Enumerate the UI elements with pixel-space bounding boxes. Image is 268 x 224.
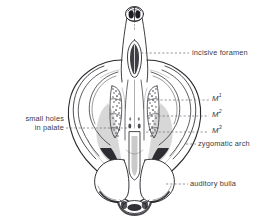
skull-figure: incisive foramen M1 M2 M3 zygomatic arch… xyxy=(0,0,268,224)
auditory-bulla-left xyxy=(95,159,129,202)
label-m1-superscript: 1 xyxy=(219,92,222,98)
label-auditory-bulla-text: auditory bulla xyxy=(190,179,236,188)
label-m1: M1 xyxy=(212,94,222,103)
palate xyxy=(125,80,144,180)
incisors xyxy=(126,7,144,31)
label-zygomatic-arch-text: zygomatic arch xyxy=(198,139,250,148)
label-incisive-foramen: incisive foramen xyxy=(192,48,248,57)
label-small-holes-in-palate: small holes in palate xyxy=(0,114,64,132)
label-m2: M2 xyxy=(212,110,222,119)
foramen-magnum xyxy=(118,200,151,215)
label-auditory-bulla: auditory bulla xyxy=(190,179,236,188)
label-m2-superscript: 2 xyxy=(219,108,222,114)
label-m2-text: M xyxy=(212,110,219,119)
label-m3-text: M xyxy=(212,126,219,135)
incisive-foramen xyxy=(128,40,142,77)
skull-drawing xyxy=(0,0,268,224)
label-zygomatic-arch: zygomatic arch xyxy=(198,139,250,148)
label-small-holes-line2: in palate xyxy=(0,123,64,132)
label-m3-superscript: 3 xyxy=(219,124,222,130)
auditory-bulla-right xyxy=(140,159,174,202)
label-incisive-foramen-text: incisive foramen xyxy=(192,48,248,57)
label-m3: M3 xyxy=(212,126,222,135)
label-m1-text: M xyxy=(212,94,219,103)
label-small-holes-line1: small holes xyxy=(0,114,64,123)
